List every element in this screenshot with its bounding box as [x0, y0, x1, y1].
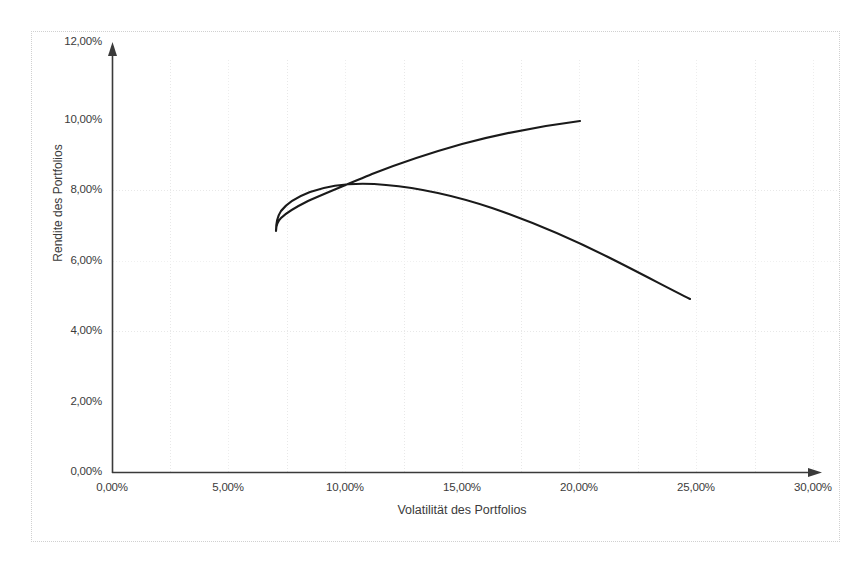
x-tick-label-30: 30,00% — [773, 481, 853, 493]
efficient-frontier-curve — [276, 121, 690, 299]
arrow-right-icon — [808, 468, 822, 477]
x-tick-label-15: 15,00% — [422, 481, 502, 493]
x-axis-title: Volatilität des Portfolios — [112, 503, 812, 517]
arrow-up-icon — [108, 42, 117, 56]
y-tick-label-0: 0,00% — [20, 465, 102, 477]
x-axis — [112, 468, 822, 477]
gridlines-horizontal — [113, 191, 838, 332]
y-tick-label-6: 6,00% — [20, 254, 102, 266]
y-axis — [108, 42, 117, 473]
x-tick-label-10: 10,00% — [305, 481, 385, 493]
x-tick-label-0: 0,00% — [72, 481, 152, 493]
y-axis-title: Rendite des Portfolios — [51, 103, 65, 303]
x-tick-label-5: 5,00% — [188, 481, 268, 493]
y-tick-label-4: 4,00% — [20, 324, 102, 336]
gridlines-vertical — [171, 60, 814, 472]
y-tick-label-2: 2,00% — [20, 395, 102, 407]
y-tick-label-10: 10,00% — [20, 113, 102, 125]
x-tick-label-20: 20,00% — [539, 481, 619, 493]
y-tick-label-8: 8,00% — [20, 183, 102, 195]
x-tick-label-25: 25,00% — [656, 481, 736, 493]
y-tick-label-12: 12,00% — [20, 35, 102, 47]
